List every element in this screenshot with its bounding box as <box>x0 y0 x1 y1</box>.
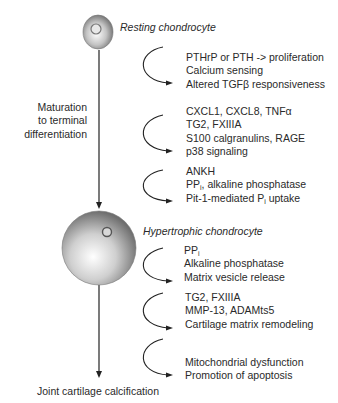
factor-line: PTHrP or PTH -> proliferation <box>186 51 325 64</box>
factor-line: TG2, FXIIIA <box>185 291 313 304</box>
curved-arrow-6 <box>143 339 168 375</box>
factor-line: p38 signaling <box>186 145 305 158</box>
maturation-line: to terminal <box>0 114 87 127</box>
arrowhead-icon <box>166 373 173 378</box>
factor-line: S100 calgranulins, RAGE <box>186 132 305 145</box>
factor-line: Matrix vesicle release <box>184 271 285 284</box>
factor-block-proliferation: PTHrP or PTH -> proliferation Calcium se… <box>186 51 325 91</box>
curved-arrow-5 <box>143 293 168 328</box>
curved-arrow-2 <box>143 115 168 151</box>
factor-block-ankh: ANKH PPi, alkaline phosphatase Pit-1-med… <box>186 165 306 205</box>
resting-chondrocyte-icon <box>83 15 113 49</box>
factor-line: Promotion of apoptosis <box>185 369 303 382</box>
arrowhead-icon <box>166 81 173 86</box>
maturation-label: Maturation to terminal differentiation <box>0 101 87 141</box>
factor-line: Alkaline phosphatase <box>184 257 285 270</box>
maturation-line: Maturation <box>0 101 87 114</box>
calcification-label: Joint cartilage calcification <box>37 385 159 398</box>
arrowhead-icon <box>96 371 102 378</box>
factor-line: PPi <box>184 244 285 257</box>
factor-line: ANKH <box>186 165 306 178</box>
hypertrophic-chondrocyte-label: Hypertrophic chondrocyte <box>143 225 263 238</box>
resting-chondrocyte-label: Resting chondrocyte <box>120 21 216 34</box>
arrowhead-icon <box>166 149 173 154</box>
maturation-line: differentiation <box>0 128 87 141</box>
factor-block-ppi: PPi Alkaline phosphatase Matrix vesicle … <box>184 244 285 284</box>
factor-line: PPi, alkaline phosphatase <box>186 178 306 191</box>
arrowhead-icon <box>96 202 102 209</box>
curved-arrow-4 <box>143 248 168 281</box>
arrowhead-icon <box>166 199 173 204</box>
factor-line: CXCL1, CXCL8, TNFα <box>186 105 305 118</box>
factor-line: Calcium sensing <box>186 64 325 77</box>
factor-line: TG2, FXIIIA <box>186 118 305 131</box>
arrowhead-icon <box>166 326 173 331</box>
curved-arrow-3 <box>143 170 168 201</box>
factor-line: MMP-13, ADAMts5 <box>185 304 313 317</box>
factor-line: Mitochondrial dysfunction <box>185 356 303 369</box>
curved-arrow-1 <box>143 47 168 83</box>
hypertrophic-chondrocyte-icon <box>62 211 136 285</box>
factor-line: Cartilage matrix remodeling <box>185 318 313 331</box>
factor-block-remodeling: TG2, FXIIIA MMP-13, ADAMts5 Cartilage ma… <box>185 291 313 331</box>
factor-line: Pit-1-mediated Pi uptake <box>186 192 306 205</box>
factor-line: Altered TGFβ responsiveness <box>186 78 325 91</box>
factor-block-apoptosis: Mitochondrial dysfunction Promotion of a… <box>185 356 303 383</box>
factor-block-inflammatory: CXCL1, CXCL8, TNFα TG2, FXIIIA S100 calg… <box>186 105 305 158</box>
arrowhead-icon <box>166 279 173 284</box>
